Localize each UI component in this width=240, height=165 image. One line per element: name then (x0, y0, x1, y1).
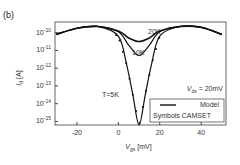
data-symbol (132, 94, 134, 96)
data-symbol (129, 78, 131, 80)
data-symbol (145, 90, 147, 92)
data-symbol (158, 37, 160, 39)
y-tick-label: 10-10 (36, 27, 51, 36)
annotation-5k: T=5K (102, 91, 119, 98)
y-axis-label: Id [A] (15, 70, 24, 85)
data-symbol (142, 106, 144, 108)
legend-symbols-label: Symbols CAMSET (153, 112, 212, 120)
x-tick-label: -20 (72, 129, 82, 136)
data-symbol (152, 59, 154, 61)
data-symbol (119, 39, 121, 41)
y-tick-label: 10-15 (36, 115, 51, 124)
x-tick-label: 0 (116, 129, 120, 136)
data-symbol (115, 34, 117, 36)
data-symbol (148, 74, 150, 76)
annotation-20k: 20K (148, 28, 161, 35)
data-symbol (138, 122, 140, 124)
x-tick-label: 20 (156, 129, 164, 136)
chart: -200204010-1010-1110-1210-1310-1410-15Vg… (0, 0, 240, 165)
data-symbol (122, 51, 124, 53)
y-tick-label: 10-13 (36, 80, 51, 89)
y-tick-label: 10-12 (36, 62, 51, 71)
x-tick-label: 40 (197, 129, 205, 136)
annotation-10k: 10K (132, 49, 145, 56)
x-axis-label: Vgs [mV] (125, 143, 151, 152)
y-tick-label: 10-14 (36, 98, 51, 107)
legend-model-label: Model (200, 101, 220, 108)
data-symbol (125, 62, 127, 64)
data-symbol (155, 48, 157, 50)
y-tick-label: 10-11 (36, 44, 51, 53)
annotation-vds: Vds = 20mV (187, 85, 224, 94)
data-symbol (135, 110, 137, 112)
curve-t-20k (56, 26, 222, 41)
